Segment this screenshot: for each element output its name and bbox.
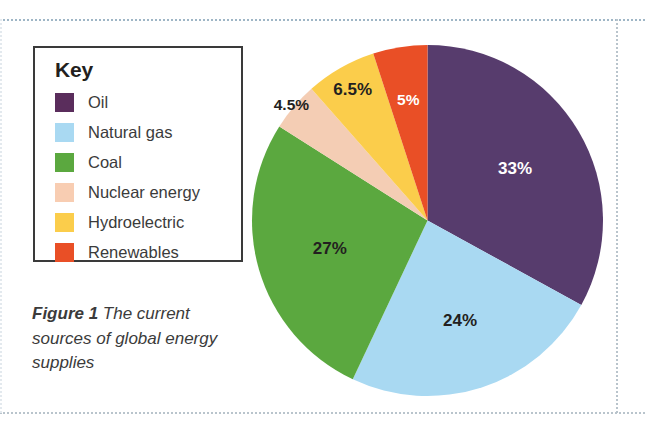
pie-slice-label: 27%: [313, 239, 347, 258]
pie-slice-label: 24%: [443, 311, 477, 330]
legend-item-label: Oil: [88, 94, 108, 111]
legend-item: Hydroelectric: [55, 207, 241, 237]
figure-container: Key OilNatural gasCoalNuclear energyHydr…: [0, 0, 645, 430]
legend-item-label: Coal: [88, 154, 122, 171]
legend-item-label: Nuclear energy: [88, 184, 200, 201]
legend-item-label: Natural gas: [88, 124, 172, 141]
frame-left-rule: [0, 19, 2, 413]
frame-right-rule: [616, 19, 618, 413]
legend-item-label: Hydroelectric: [88, 214, 184, 231]
caption-figure-number: Figure 1: [32, 304, 98, 323]
legend-title: Key: [55, 58, 241, 81]
pie-slice-label: 33%: [498, 159, 532, 178]
pie-chart: 33%24%27%4.5%6.5%5%: [250, 43, 605, 398]
legend-item-label: Renewables: [88, 244, 179, 261]
legend-item: Oil: [55, 87, 241, 117]
legend-item: Natural gas: [55, 117, 241, 147]
legend-box: Key OilNatural gasCoalNuclear energyHydr…: [33, 46, 243, 262]
legend-swatch-icon: [55, 183, 74, 202]
legend-swatch-icon: [55, 243, 74, 262]
pie-slice-label: 5%: [397, 91, 420, 108]
frame-top-rule: [0, 19, 645, 21]
legend-item: Nuclear energy: [55, 177, 241, 207]
figure-caption: Figure 1 The current sources of global e…: [32, 302, 247, 376]
legend-swatch-icon: [55, 123, 74, 142]
legend-item: Coal: [55, 147, 241, 177]
pie-slice-label: 6.5%: [333, 80, 372, 99]
legend-item-list: OilNatural gasCoalNuclear energyHydroele…: [55, 87, 241, 267]
legend-swatch-icon: [55, 153, 74, 172]
pie-slice-label: 4.5%: [274, 96, 310, 113]
legend-item: Renewables: [55, 237, 241, 267]
legend-swatch-icon: [55, 213, 74, 232]
frame-bottom-rule: [0, 412, 645, 414]
legend-swatch-icon: [55, 93, 74, 112]
